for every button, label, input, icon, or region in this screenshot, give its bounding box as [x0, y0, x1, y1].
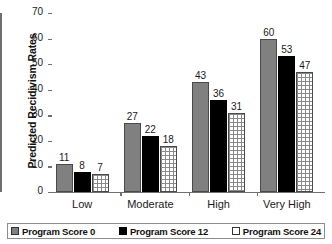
bar[interactable]	[92, 174, 109, 192]
y-axis-tick: 60	[0, 39, 52, 40]
bar-value-label: 60	[254, 27, 284, 38]
plot-area: 1187272218433631605347	[52, 13, 325, 192]
x-axis-tick-mark	[189, 192, 190, 196]
legend-item-label: Program Score 12	[130, 226, 208, 237]
bar[interactable]	[260, 39, 277, 192]
bar-value-label: 27	[117, 111, 147, 122]
bar-value-label: 36	[204, 88, 234, 99]
bar-chart: Predicted Recidivism Rates 0102030405060…	[0, 0, 332, 244]
y-axis-tick: 0	[0, 192, 52, 193]
bar[interactable]	[296, 72, 313, 192]
bar[interactable]	[228, 113, 245, 192]
bar-value-label: 18	[153, 134, 183, 145]
legend-swatch-icon	[119, 227, 127, 235]
bar-value-label: 31	[222, 101, 252, 112]
y-axis-tick-mark	[48, 192, 52, 193]
y-axis-tick: 20	[0, 141, 52, 142]
chart-legend: Program Score 0 Program Score 12 Program…	[7, 223, 325, 239]
y-axis-tick-label: 30	[32, 108, 43, 119]
y-axis-tick-label: 50	[32, 57, 43, 68]
bar[interactable]	[278, 56, 295, 192]
bar-value-label: 53	[272, 44, 302, 55]
y-axis-tick: 10	[0, 166, 52, 167]
y-axis-tick-label: 0	[37, 185, 43, 196]
y-axis-tick: 70	[0, 13, 52, 14]
legend-swatch-icon	[11, 227, 19, 235]
bar-group: 433631	[189, 13, 257, 192]
y-axis-line	[0, 13, 2, 192]
y-axis-tick-label: 60	[32, 32, 43, 43]
bar[interactable]	[74, 172, 91, 192]
legend-item-label: Program Score 0	[22, 226, 95, 237]
y-axis-tick-label: 70	[32, 6, 43, 17]
y-axis-tick: 50	[0, 64, 52, 65]
legend-item[interactable]: Program Score 24	[232, 226, 321, 237]
legend-item[interactable]: Program Score 12	[119, 226, 208, 237]
x-axis-category-label: Very High	[232, 198, 332, 210]
bar-group: 605347	[257, 13, 325, 192]
x-axis-tick-mark	[257, 192, 258, 196]
y-axis-tick: 40	[0, 90, 52, 91]
y-axis-tick: 30	[0, 115, 52, 116]
bar[interactable]	[160, 146, 177, 192]
legend-item-label: Program Score 24	[243, 226, 321, 237]
x-axis-tick-mark	[120, 192, 121, 196]
y-axis-tick-label: 10	[32, 159, 43, 170]
bar-value-label: 47	[290, 60, 320, 71]
legend-item[interactable]: Program Score 0	[11, 226, 95, 237]
bar-value-label: 43	[186, 70, 216, 81]
legend-swatch-icon	[232, 227, 240, 235]
bar-value-label: 7	[85, 162, 115, 173]
y-axis-tick-label: 40	[32, 83, 43, 94]
bar-group: 1187	[52, 13, 120, 192]
bar-group: 272218	[120, 13, 188, 192]
y-axis-tick-label: 20	[32, 134, 43, 145]
bar[interactable]	[210, 100, 227, 192]
